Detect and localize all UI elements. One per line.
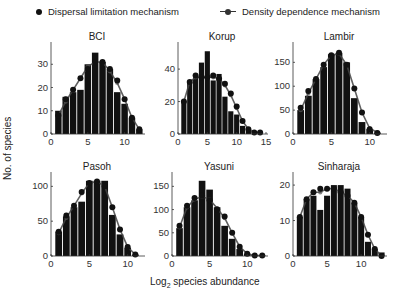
dispersal-dot: [107, 66, 113, 72]
y-tick-label: 10: [279, 215, 290, 226]
dispersal-dot: [228, 90, 234, 96]
dispersal-dot: [125, 244, 131, 250]
dispersal-dot: [198, 74, 204, 80]
dispersal-dot: [129, 115, 135, 121]
y-tick-label: 0: [285, 250, 290, 261]
dispersal-dot: [252, 253, 258, 259]
dispersal-dot: [70, 87, 76, 93]
bar: [117, 234, 124, 256]
bar: [199, 63, 204, 134]
dispersal-dot: [210, 73, 216, 79]
bar: [86, 181, 93, 256]
dispersal-dot: [56, 229, 62, 235]
dispersal-dot: [372, 246, 378, 252]
dispersal-dot: [184, 203, 190, 209]
y-tick-label: 0: [43, 128, 48, 139]
subplot-yasuni: Yasuni0510050100150: [153, 161, 268, 269]
dispersal-dot: [338, 189, 344, 195]
dispersal-dot: [305, 88, 311, 94]
bar: [338, 185, 344, 256]
dispersal-dot: [63, 213, 69, 219]
bar: [107, 69, 113, 134]
bar: [114, 92, 120, 134]
dispersal-dot: [193, 73, 199, 79]
dispersal-dot: [102, 183, 108, 189]
y-tick-label: 50: [158, 227, 169, 238]
dispersal-dot: [79, 189, 85, 195]
bar: [317, 210, 323, 256]
bar: [222, 97, 227, 134]
dispersal-dot: [100, 59, 106, 65]
x-tick-label: 10: [356, 258, 367, 269]
chart-grid: BCI05100102030Korup05101502040Lambir0510…: [0, 0, 403, 298]
bar: [199, 181, 206, 256]
dispersal-dot: [251, 129, 257, 135]
bar: [109, 215, 116, 256]
dispersal-dot: [222, 214, 228, 220]
dispersal-dot: [336, 50, 342, 56]
bar: [85, 64, 91, 134]
bar: [193, 77, 198, 134]
subplot-title: Lambir: [324, 31, 355, 42]
bar: [236, 249, 243, 256]
bar: [240, 126, 245, 134]
bar: [297, 217, 303, 256]
bar: [78, 202, 85, 256]
y-tick-label: 30: [37, 58, 48, 69]
dispersal-dot: [192, 195, 198, 201]
dispersal-dot: [214, 207, 220, 213]
y-tick-label: 40: [164, 63, 175, 74]
subplot-title: Yasuni: [204, 161, 234, 172]
bar: [70, 92, 76, 134]
dispersal-dot: [132, 252, 138, 258]
bar: [305, 96, 312, 134]
y-tick-label: 50: [279, 104, 290, 115]
bar: [77, 90, 83, 134]
dispersal-dot: [331, 186, 337, 192]
y-tick-label: 100: [153, 204, 169, 215]
dispersal-dot: [177, 223, 183, 229]
bar: [214, 207, 221, 256]
bar: [359, 122, 366, 134]
dispersal-dot: [365, 232, 371, 238]
dispersal-dot: [310, 189, 316, 195]
bar: [229, 239, 236, 256]
dispersal-dot: [345, 193, 351, 199]
x-tick-label: 5: [87, 258, 92, 269]
dispersal-dot: [328, 52, 334, 58]
dispersal-dot: [86, 180, 92, 186]
dispersal-dot: [94, 178, 100, 184]
dispersal-dot: [313, 76, 319, 82]
subplot-pasoh: Pasoh0510050100: [32, 161, 145, 269]
bar: [55, 232, 62, 256]
dispersal-dot: [297, 214, 303, 220]
y-tick-label: 150: [153, 180, 169, 191]
dispersal-dot: [181, 99, 187, 105]
subplot-lambir: Lambir0510050100150: [274, 31, 387, 147]
x-tick-label: 0: [169, 258, 174, 269]
bar: [320, 67, 327, 134]
dispersal-dot: [92, 59, 98, 65]
bar: [191, 200, 198, 256]
x-tick-label: 0: [175, 136, 180, 147]
y-tick-label: 20: [37, 82, 48, 93]
dispersal-dot: [216, 76, 222, 82]
bar: [121, 104, 127, 134]
dispersal-dot: [245, 126, 251, 132]
x-tick-label: 10: [122, 258, 133, 269]
y-tick-label: 0: [164, 250, 169, 261]
dispersal-dot: [317, 186, 323, 192]
dispersal-dot: [304, 196, 310, 202]
x-tick-label: 5: [329, 136, 334, 147]
subplot-sinharaja: Sinharaja051001020: [279, 161, 387, 269]
x-tick-label: 0: [48, 258, 53, 269]
dispersal-dot: [63, 96, 69, 102]
y-tick-label: 0: [43, 250, 48, 261]
bar: [304, 199, 310, 256]
x-tick-label: 5: [207, 258, 212, 269]
x-axis-label-prefix: Log: [150, 276, 167, 287]
dispersal-dot: [136, 126, 142, 132]
x-axis-label-suffix: species abundance: [171, 276, 260, 287]
bar: [336, 53, 343, 134]
x-tick-label: 15: [261, 136, 272, 147]
